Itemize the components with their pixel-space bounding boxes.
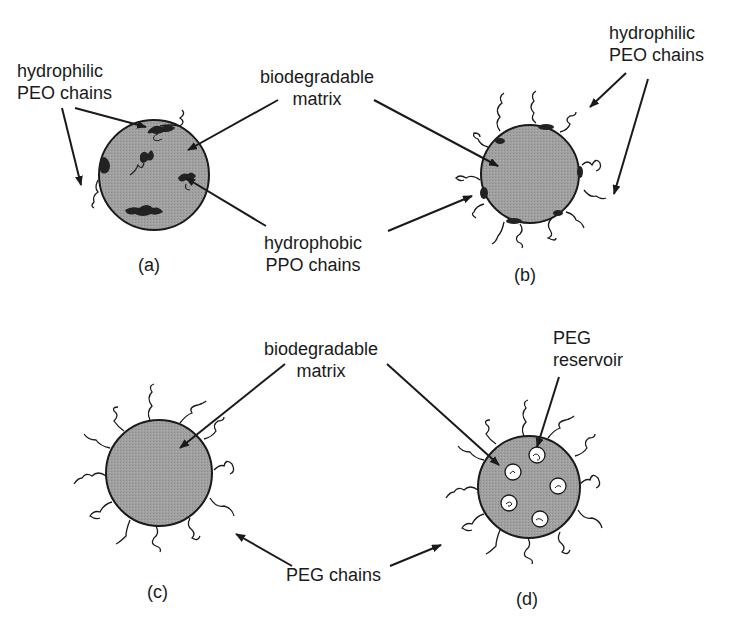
label-biodegradable-matrix-bottom: biodegradable matrix <box>264 338 378 382</box>
particle-d <box>446 400 602 564</box>
particle-c <box>74 384 234 552</box>
caption-c: (c) <box>147 581 168 603</box>
particle-a <box>92 110 209 230</box>
particle-b <box>456 91 606 248</box>
label-peg-reservoir: PEG reservoir <box>553 327 623 371</box>
nanoparticle-diagram <box>0 0 752 642</box>
caption-b: (b) <box>514 264 536 286</box>
caption-a: (a) <box>138 254 160 276</box>
label-b-hydrophilic-peo: hydrophilic PEO chains <box>609 22 704 66</box>
caption-d: (d) <box>516 588 538 610</box>
label-biodegradable-matrix-top: biodegradable matrix <box>260 66 374 110</box>
label-hydrophobic-ppo: hydrophobic PPO chains <box>264 232 362 276</box>
label-peg-chains: PEG chains <box>286 564 381 586</box>
label-a-hydrophilic-peo: hydrophilic PEO chains <box>17 60 112 104</box>
